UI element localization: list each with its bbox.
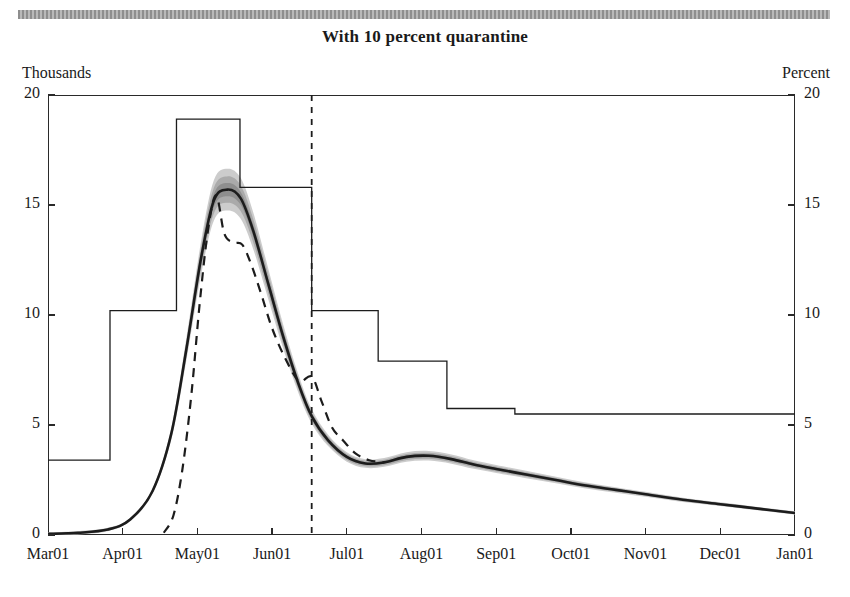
y-tick-mark-right — [788, 94, 795, 95]
y-tick-mark-right — [788, 424, 795, 425]
y-tick-mark-right — [788, 534, 795, 535]
chart-title: With 10 percent quarantine — [0, 27, 850, 47]
y-tick-left-10: 10 — [4, 305, 40, 321]
x-tick-label-Sep01: Sep01 — [461, 545, 531, 563]
y-tick-mark-right — [788, 314, 795, 315]
header-rule-bar — [18, 10, 830, 19]
x-tick-label-Mar01: Mar01 — [13, 545, 83, 563]
x-tick-mark — [197, 528, 198, 535]
y-tick-right-20: 20 — [804, 85, 844, 101]
y-tick-left-20: 20 — [4, 85, 40, 101]
x-tick-mark — [122, 528, 123, 535]
x-tick-label-Aug01: Aug01 — [387, 545, 457, 563]
left-axis-unit-label: Thousands — [22, 64, 91, 82]
x-tick-label-Dec01: Dec01 — [685, 545, 755, 563]
x-tick-mark — [421, 528, 422, 535]
y-tick-left-5: 5 — [4, 415, 40, 431]
x-tick-mark — [346, 528, 347, 535]
y-tick-left-0: 0 — [4, 525, 40, 541]
x-tick-label-Oct01: Oct01 — [536, 545, 606, 563]
x-tick-label-Jun01: Jun01 — [237, 545, 307, 563]
alternative-scenario-line — [164, 195, 384, 533]
uncertainty-band-mid — [48, 176, 795, 535]
y-tick-right-5: 5 — [804, 415, 844, 431]
uncertainty-band-inner — [48, 183, 795, 534]
right-axis-unit-label: Percent — [782, 64, 830, 82]
y-tick-mark-left — [48, 204, 55, 205]
x-tick-mark — [645, 528, 646, 535]
y-tick-mark-left — [48, 94, 55, 95]
x-tick-mark — [271, 528, 272, 535]
x-tick-mark — [570, 528, 571, 535]
y-tick-right-0: 0 — [804, 525, 844, 541]
y-tick-mark-left — [48, 314, 55, 315]
y-tick-left-15: 15 — [4, 195, 40, 211]
figure-container: With 10 percent quarantine Thousands Per… — [0, 0, 850, 597]
x-tick-mark — [496, 528, 497, 535]
x-tick-label-Nov01: Nov01 — [611, 545, 681, 563]
chart-canvas — [48, 95, 795, 535]
x-tick-mark — [720, 528, 721, 535]
y-tick-right-15: 15 — [804, 195, 844, 211]
x-tick-label-Jan01: Jan01 — [760, 545, 830, 563]
x-tick-label-May01: May01 — [162, 545, 232, 563]
y-tick-mark-left — [48, 424, 55, 425]
uncertainty-band-outer — [48, 169, 795, 535]
header-rule — [18, 10, 830, 19]
y-tick-mark-right — [788, 204, 795, 205]
y-tick-mark-left — [48, 534, 55, 535]
y-tick-right-10: 10 — [804, 305, 844, 321]
plot-area — [48, 95, 795, 535]
x-tick-label-Apr01: Apr01 — [88, 545, 158, 563]
step-path-line — [48, 119, 795, 460]
x-tick-label-Jul01: Jul01 — [312, 545, 382, 563]
